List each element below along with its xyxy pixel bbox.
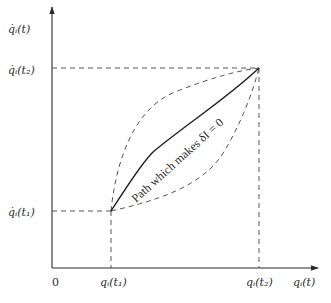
y-axis-label: q̇ᵢ(t) — [8, 23, 30, 36]
y-tick-t1: q̇ᵢ(t₁) — [8, 206, 35, 219]
x-tick-t1: qᵢ(t₁) — [100, 276, 127, 289]
x-tick-t2: qᵢ(t₂) — [246, 276, 273, 289]
y-tick-t2: q̇ᵢ(t₂) — [8, 64, 35, 77]
variation-diagram: Path which makes δI = 0 q̇ᵢ(t) qᵢ(t) 0 q… — [0, 0, 331, 303]
origin-label: 0 — [52, 276, 59, 289]
x-axis-label: qᵢ(t) — [293, 276, 315, 289]
stationary-path-label: Path which makes δI = 0 — [129, 115, 227, 205]
